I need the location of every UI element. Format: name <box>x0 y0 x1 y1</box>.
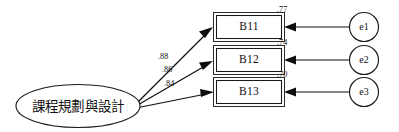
loading-coefficient-b13: .84 <box>164 79 174 88</box>
loading-arrowhead-b13 <box>200 89 214 97</box>
error-circle-e1[interactable]: e1 <box>350 13 379 42</box>
smc-label-b12: .74 <box>277 38 287 47</box>
indicator-box-b11[interactable]: B11 <box>214 13 285 42</box>
error-path-e3 <box>284 88 349 97</box>
loading-coefficient-b11: .88 <box>158 52 168 61</box>
error-path-e2 <box>284 56 349 65</box>
loading-path-group <box>136 27 214 108</box>
sem-path-diagram: B11 B12 B13 e1 e2 <box>0 0 399 132</box>
error-label-e1: e1 <box>359 21 368 32</box>
indicator-box-b13[interactable]: B13 <box>214 78 285 107</box>
smc-label-b13: .70 <box>277 70 287 79</box>
loading-arrowhead-b11 <box>199 27 213 38</box>
indicator-label-b13: B13 <box>239 85 259 97</box>
latent-variable-ellipse[interactable]: 課程規劃與設計 <box>16 85 140 128</box>
loading-coefficient-group: .88 .86 .84 <box>158 52 174 88</box>
error-arrowhead-e2 <box>284 56 296 65</box>
error-label-e2: e2 <box>359 54 368 65</box>
sem-diagram-canvas: B11 B12 B13 e1 e2 <box>0 0 399 132</box>
loading-path-b12 <box>136 61 213 106</box>
error-circle-e3[interactable]: e3 <box>350 78 379 107</box>
loading-line-b13 <box>136 94 206 108</box>
error-path-group <box>284 23 349 97</box>
error-path-e1 <box>284 23 349 32</box>
indicator-label-b11: B11 <box>239 20 259 32</box>
error-label-e3: e3 <box>359 86 368 97</box>
error-circle-group: e1 e2 e3 <box>350 13 379 107</box>
indicator-box-b12[interactable]: B12 <box>214 46 285 75</box>
loading-coefficient-b12: .86 <box>162 65 172 74</box>
smc-label-b11: .77 <box>277 5 287 14</box>
error-circle-e2[interactable]: e2 <box>350 46 379 75</box>
indicator-box-group: B11 B12 B13 <box>214 13 285 107</box>
error-arrowhead-e3 <box>284 88 296 97</box>
indicator-label-b12: B12 <box>239 53 259 65</box>
latent-label: 課程規劃與設計 <box>32 98 124 114</box>
error-arrowhead-e1 <box>284 23 296 32</box>
